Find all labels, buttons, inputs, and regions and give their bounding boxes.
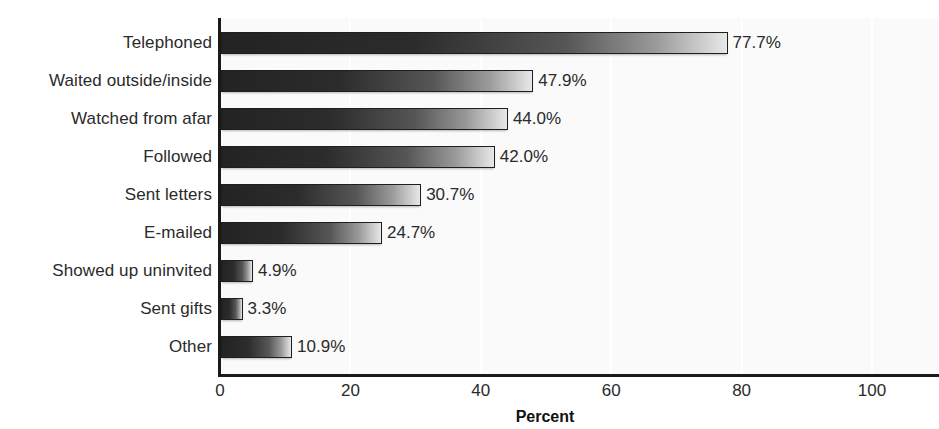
x-tick-label: 100 [858, 381, 886, 401]
category-label: Waited outside/inside [49, 71, 212, 91]
bar [221, 70, 533, 92]
x-tick-label: 20 [341, 381, 360, 401]
bar-row: Sent gifts3.3% [0, 298, 939, 320]
x-tick-label: 40 [471, 381, 490, 401]
bar-row: Watched from afar44.0% [0, 108, 939, 130]
bar [221, 146, 495, 168]
x-tick-label: 80 [732, 381, 751, 401]
bar-row: Other10.9% [0, 336, 939, 358]
value-label: 10.9% [297, 337, 345, 357]
bar-row: Waited outside/inside47.9% [0, 70, 939, 92]
category-label: Telephoned [123, 33, 212, 53]
bar [221, 260, 253, 282]
value-label: 30.7% [426, 185, 474, 205]
bar-chart: Telephoned77.7%Waited outside/inside47.9… [0, 0, 939, 429]
bar [221, 298, 243, 320]
x-axis-title: Percent [516, 408, 575, 426]
bar [221, 108, 508, 130]
bar [221, 336, 292, 358]
category-label: E-mailed [144, 223, 212, 243]
value-label: 3.3% [248, 299, 287, 319]
value-label: 77.7% [733, 33, 781, 53]
bar [221, 184, 421, 206]
bar-row: Followed42.0% [0, 146, 939, 168]
value-label: 47.9% [538, 71, 586, 91]
bar-row: Showed up uninvited4.9% [0, 260, 939, 282]
x-tick-label: 0 [215, 381, 224, 401]
category-label: Other [169, 337, 212, 357]
category-label: Sent letters [125, 185, 212, 205]
value-label: 4.9% [258, 261, 297, 281]
category-label: Showed up uninvited [52, 261, 212, 281]
category-label: Watched from afar [71, 109, 212, 129]
value-label: 42.0% [500, 147, 548, 167]
x-axis-line [218, 374, 939, 377]
category-label: Sent gifts [140, 299, 212, 319]
bar-row: E-mailed24.7% [0, 222, 939, 244]
x-tick-label: 60 [602, 381, 621, 401]
value-label: 24.7% [387, 223, 435, 243]
value-label: 44.0% [513, 109, 561, 129]
bar [221, 32, 728, 54]
category-label: Followed [143, 147, 212, 167]
bar-row: Telephoned77.7% [0, 32, 939, 54]
bar-row: Sent letters30.7% [0, 184, 939, 206]
bar [221, 222, 382, 244]
